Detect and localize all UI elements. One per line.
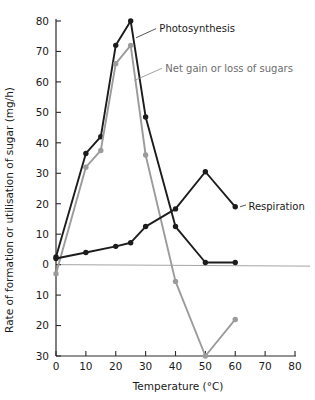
y-tick-label: 30 [36,167,49,179]
data-point [128,18,133,23]
respiration-leader-line [240,205,246,207]
x-tick-label: 30 [139,360,152,372]
data-point [173,206,178,211]
x-tick-label: 50 [199,360,212,372]
data-point [113,43,118,48]
data-point [53,256,58,261]
x-tick-label: 0 [53,360,60,372]
series-line-respiration [56,172,235,259]
chart-figure: 8070605040302010010203001020304050607080… [0,0,315,400]
data-point [98,148,103,153]
respiration-label: Respiration [248,201,304,212]
x-tick-label: 20 [109,360,122,372]
x-tick-label: 70 [258,360,271,372]
data-point [53,271,58,276]
data-point [83,164,88,169]
y-tick-label: 0 [42,258,49,270]
data-point [143,114,148,119]
data-point [203,353,208,358]
data-point [143,152,148,157]
x-tick-label: 80 [288,360,301,372]
net-gain-loss-label: Net gain or loss of sugars [165,63,293,74]
y-tick-label: 50 [36,106,49,118]
data-point [83,250,88,255]
data-point [173,279,178,284]
data-point [173,224,178,229]
y-tick-label: 10 [36,289,49,301]
data-point [203,169,208,174]
data-point [233,317,238,322]
y-tick-label: 20 [36,319,49,331]
y-tick-label: 30 [36,350,49,362]
x-axis-title: Temperature (°C) [132,380,224,392]
data-point [143,224,148,229]
data-point [83,151,88,156]
data-point [233,204,238,209]
y-axis-title: Rate of formation or utilisation of suga… [3,87,15,333]
y-tick-label: 70 [36,45,49,57]
data-point [128,43,133,48]
y-tick-label: 40 [36,137,49,149]
photosynthesis-leader-line [136,29,156,38]
y-tick-label: 20 [36,198,49,210]
series-line-net-gain-or-loss-of-sugars [56,45,235,356]
x-tick-label: 10 [79,360,92,372]
data-point [113,61,118,66]
x-tick-label: 60 [229,360,242,372]
y-tick-label: 80 [36,15,49,27]
data-point [128,240,133,245]
y-tick-label: 10 [36,228,49,240]
data-point [233,260,238,265]
zero-reference-line [56,265,310,267]
data-point [113,244,118,249]
photosynthesis-label: Photosynthesis [159,23,235,34]
data-point [203,260,208,265]
y-tick-label: 60 [36,76,49,88]
x-tick-label: 40 [169,360,182,372]
